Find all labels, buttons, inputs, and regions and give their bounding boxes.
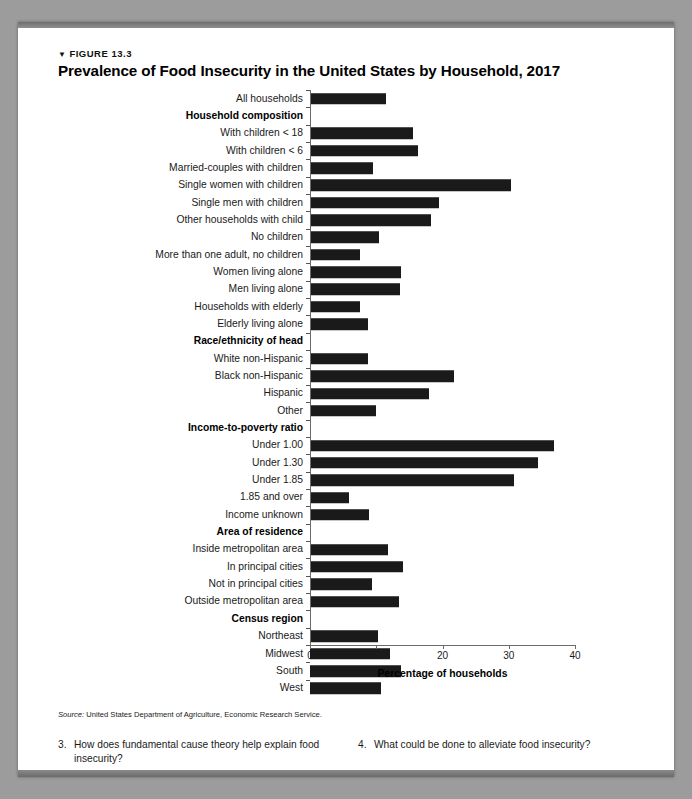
x-axis-tick [310, 645, 311, 649]
chart-bar-row: Men living alone [58, 281, 638, 298]
chart-category-label: Hispanic [58, 388, 310, 398]
chart-bar-row: Hispanic [58, 385, 638, 402]
page-top-rule [18, 22, 674, 28]
chart-plot-cell [310, 385, 638, 402]
chart-plot-cell [310, 229, 638, 246]
x-axis-tick [509, 645, 510, 649]
chart-category-label: In principal cities [58, 562, 310, 572]
chart-category-label: Northeast [58, 631, 310, 641]
x-axis-tick-label: 0 [307, 650, 313, 661]
chart-plot-cell [310, 125, 638, 142]
chart-bar [310, 405, 376, 417]
chart-category-label: Outside metropolitan area [58, 596, 310, 606]
chart-plot-cell [310, 454, 638, 471]
chart-bar-row: Income unknown [58, 506, 638, 523]
chart-group-label: Census region [58, 614, 310, 624]
chart-category-label: Single men with children [58, 198, 310, 208]
chart-bar-row: Single men with children [58, 194, 638, 211]
chart-bar [310, 249, 360, 261]
chart-bar [310, 631, 378, 643]
chart-plot-cell [310, 142, 638, 159]
chart-bar [310, 596, 399, 608]
chart-plot-cell [310, 506, 638, 523]
bar-chart: All householdsHousehold compositionWith … [58, 90, 638, 670]
chart-bar-row: All households [58, 90, 638, 107]
chart-bar [310, 284, 400, 296]
chart-plot-cell [310, 281, 638, 298]
chart-group-label: Household composition [58, 111, 310, 121]
chart-category-label: Men living alone [58, 284, 310, 294]
chart-bar [310, 93, 386, 105]
y-axis-tick [306, 680, 311, 681]
chart-bar [310, 197, 439, 209]
chart-category-label: Other households with child [58, 215, 310, 225]
figure-source: Source: United States Department of Agri… [58, 710, 322, 719]
chart-plot-cell [310, 159, 638, 176]
chart-category-label: Inside metropolitan area [58, 544, 310, 554]
chart-bar-row: 1.85 and over [58, 489, 638, 506]
chart-group-header-row: Income-to-poverty ratio [58, 420, 638, 437]
chart-bar-row: Elderly living alone [58, 315, 638, 332]
chart-category-label: All households [58, 94, 310, 104]
chart-bar [310, 214, 431, 226]
chart-plot-cell [310, 315, 638, 332]
chart-bar [310, 162, 373, 174]
chart-bar [310, 561, 403, 573]
figure-number-text: FIGURE 13.3 [69, 48, 132, 59]
chart-category-label: More than one adult, no children [58, 250, 310, 260]
chart-category-label: With children < 6 [58, 146, 310, 156]
chart-bar [310, 128, 413, 140]
chart-bar-row: Married-couples with children [58, 159, 638, 176]
chart-category-label: Midwest [58, 649, 310, 659]
questions-list: 3. How does fundamental cause theory hel… [58, 738, 648, 766]
figure-page: ▼FIGURE 13.3 Prevalence of Food Insecuri… [18, 22, 674, 777]
chart-plot-cell [310, 177, 638, 194]
chart-rows: All householdsHousehold compositionWith … [58, 90, 638, 697]
chart-bar-row: Black non-Hispanic [58, 368, 638, 385]
chart-bar-row: Under 1.30 [58, 454, 638, 471]
chart-bar-row: No children [58, 229, 638, 246]
chart-plot-cell [310, 211, 638, 228]
chart-category-label: 1.85 and over [58, 492, 310, 502]
chart-bar-row: Northeast [58, 628, 638, 645]
chart-category-label: Under 1.00 [58, 440, 310, 450]
chart-category-label: Women living alone [58, 267, 310, 277]
chart-category-label: Households with elderly [58, 302, 310, 312]
chart-category-label: Elderly living alone [58, 319, 310, 329]
chart-category-label: Not in principal cities [58, 579, 310, 589]
chart-plot-cell [310, 194, 638, 211]
chart-plot-cell [310, 350, 638, 367]
x-axis-tick-label: 10 [371, 650, 382, 661]
chart-category-label: No children [58, 232, 310, 242]
x-axis-tick [376, 645, 377, 649]
chart-category-label: Married-couples with children [58, 163, 310, 173]
chart-bar-row: Single women with children [58, 177, 638, 194]
page-title: Prevalence of Food Insecurity in the Uni… [58, 62, 560, 79]
chart-plot-cell [310, 524, 638, 541]
chart-bar-row: Under 1.00 [58, 437, 638, 454]
question-item: 3. How does fundamental cause theory hel… [58, 738, 336, 766]
question-number: 4. [358, 738, 374, 766]
chart-plot-cell [310, 610, 638, 627]
chart-group-header-row: Census region [58, 610, 638, 627]
chart-bar [310, 180, 511, 192]
question-text: What could be done to alleviate food ins… [374, 738, 636, 766]
chart-plot-cell [310, 246, 638, 263]
chart-plot-cell [310, 90, 638, 107]
chart-bar-row: Households with elderly [58, 298, 638, 315]
chart-category-label: Other [58, 406, 310, 416]
chart-category-label: South [58, 666, 310, 676]
chart-bar [310, 318, 368, 330]
chart-bar-row: Women living alone [58, 263, 638, 280]
chart-bar-row: Inside metropolitan area [58, 541, 638, 558]
chart-plot-cell [310, 489, 638, 506]
chart-bar-row: West [58, 680, 638, 697]
chart-plot-cell [310, 437, 638, 454]
chart-category-label: Single women with children [58, 180, 310, 190]
chart-bar [310, 457, 538, 469]
chart-bar-row: Outside metropolitan area [58, 593, 638, 610]
chart-plot-cell [310, 402, 638, 419]
chart-plot-cell [310, 263, 638, 280]
chart-plot-cell [310, 680, 638, 697]
triangle-down-icon: ▼ [58, 50, 66, 59]
